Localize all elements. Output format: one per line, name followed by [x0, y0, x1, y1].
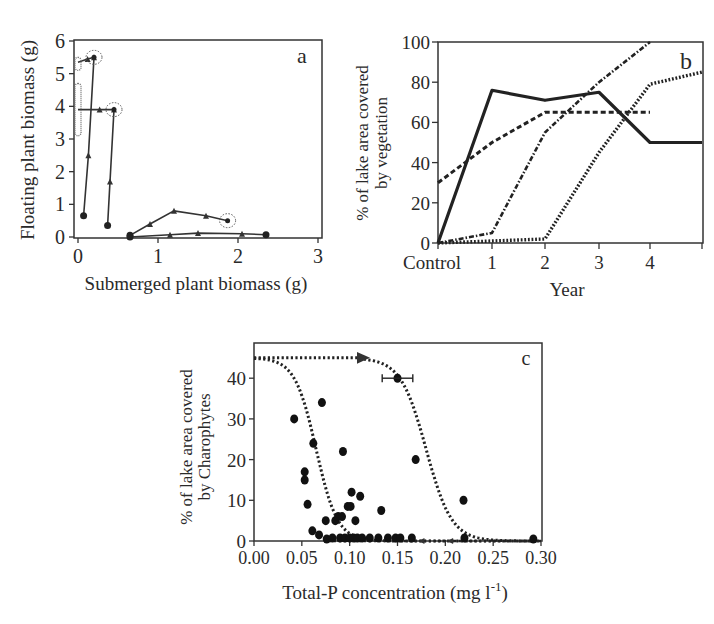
y-tick-label: 40 — [411, 153, 430, 174]
panel-c-ylabel-line1: % of lake area covered — [177, 369, 196, 525]
data-point — [315, 530, 323, 539]
data-point — [356, 492, 364, 501]
data-point — [339, 447, 347, 456]
data-point — [318, 398, 326, 407]
series-line-dashed — [438, 112, 650, 182]
arrow-marker — [107, 178, 113, 184]
trajectory-line — [78, 57, 94, 215]
end-marker — [263, 231, 270, 238]
x-tick-label: 2 — [233, 245, 243, 267]
panel-b-label: b — [680, 48, 692, 74]
x-tick-label: 0.25 — [477, 548, 509, 568]
data-point — [460, 496, 468, 505]
panel-a-label: a — [297, 43, 307, 68]
panel-a-frame — [74, 40, 322, 238]
y-tick-label: 3 — [55, 128, 65, 150]
data-point — [408, 534, 416, 543]
panel-a-series — [75, 50, 270, 240]
arrow-left-icon — [418, 538, 424, 544]
y-tick-label: 10 — [227, 490, 246, 511]
panel-b-series — [438, 42, 702, 243]
y-tick-label: 0 — [421, 233, 431, 254]
panel-c-points — [290, 374, 537, 544]
data-point — [396, 534, 404, 543]
y-tick-label: 0 — [237, 531, 247, 552]
panel-a-ticks: 01230123456 — [55, 30, 323, 267]
threshold-curve — [359, 359, 539, 541]
x-tick-label: 0 — [73, 245, 83, 267]
panel-c-xlabel-main: Total-P concentration (mg l — [282, 582, 491, 604]
panel-c-xlabel: Total-P concentration (mg l-1) — [282, 579, 508, 604]
figure: 01230123456 a Submerged plant biomass (g… — [0, 0, 714, 624]
panel-c-frame — [254, 343, 542, 541]
panel-c-xlabel-sup: -1 — [491, 579, 502, 594]
y-tick-label: 100 — [402, 32, 431, 53]
end-marker — [112, 107, 117, 112]
start-marker — [80, 212, 87, 219]
threshold-curve — [254, 358, 539, 541]
y-tick-label: 60 — [411, 112, 430, 133]
arrow-marker — [147, 221, 153, 227]
panel-c-xlabel-end: ) — [502, 582, 508, 604]
panel-a-xlabel: Submerged plant biomass (g) — [85, 273, 308, 295]
y-tick-label: 20 — [227, 450, 246, 471]
data-point — [304, 500, 312, 509]
panel-c-ylabel-line2: by Charophytes — [195, 393, 214, 500]
x-tick-label: 0.10 — [334, 548, 366, 568]
panel-b-ylabel-line2: by vegetation — [372, 96, 391, 189]
data-point — [347, 502, 355, 511]
data-point — [351, 516, 359, 525]
data-point — [358, 534, 366, 543]
data-point — [290, 414, 298, 423]
x-tick-label: 0.15 — [382, 548, 414, 568]
trajectory-line — [130, 211, 228, 236]
panel-b: Control1234020406080100 b Year % of lake… — [353, 32, 703, 300]
data-point — [374, 534, 382, 543]
data-point — [377, 506, 385, 515]
x-tick-label: 1 — [153, 245, 163, 267]
y-tick-label: 80 — [411, 72, 430, 93]
y-tick-label: 4 — [55, 95, 65, 117]
data-point — [460, 534, 468, 543]
panel-a-ylabel: Floating plant biomass (g) — [17, 40, 39, 240]
panel-c-label: c — [522, 347, 531, 369]
cluster-marker — [75, 57, 81, 70]
x-tick-label: Control — [403, 252, 461, 273]
data-point — [529, 534, 537, 543]
panel-b-xlabel: Year — [549, 279, 585, 300]
panel-a: 01230123456 a Submerged plant biomass (g… — [17, 30, 323, 295]
data-point — [301, 475, 309, 484]
data-point — [328, 534, 336, 543]
y-tick-label: 1 — [55, 193, 65, 215]
x-tick-label: 0.20 — [430, 548, 462, 568]
start-marker — [104, 222, 111, 229]
end-marker — [225, 218, 230, 223]
x-tick-label: 4 — [645, 252, 655, 273]
data-point — [322, 516, 330, 525]
y-tick-label: 5 — [55, 63, 65, 85]
arrow-left-icon — [447, 538, 453, 544]
start-marker — [127, 234, 134, 241]
data-point — [348, 488, 356, 497]
data-point — [384, 534, 392, 543]
data-point — [366, 534, 374, 543]
x-tick-label: 1 — [487, 252, 497, 273]
data-point — [301, 467, 309, 476]
panel-c-curves — [254, 358, 541, 544]
y-tick-label: 40 — [227, 368, 246, 389]
y-tick-label: 0 — [55, 226, 65, 248]
x-tick-label: 0.30 — [525, 548, 557, 568]
y-tick-label: 30 — [227, 409, 246, 430]
y-tick-label: 20 — [411, 193, 430, 214]
panel-c: 0.000.050.100.150.200.250.30010203040 c … — [177, 343, 557, 604]
x-tick-label: 0.05 — [286, 548, 318, 568]
y-tick-label: 2 — [55, 161, 65, 183]
y-tick-label: 6 — [55, 30, 65, 52]
data-point — [309, 439, 317, 448]
x-tick-label: 2 — [540, 252, 550, 273]
panel-b-ticks: Control1234020406080100 — [402, 32, 703, 273]
arrow-marker — [85, 152, 91, 158]
end-marker — [92, 55, 97, 60]
x-tick-label: 3 — [313, 245, 323, 267]
x-tick-label: 3 — [594, 252, 604, 273]
